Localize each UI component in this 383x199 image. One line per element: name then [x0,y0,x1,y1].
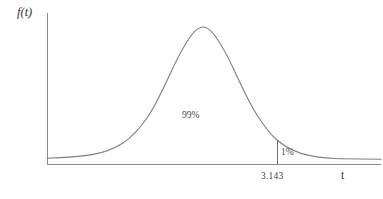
main-area-label: 99% [182,111,199,121]
distribution-plot [0,0,383,199]
x-axis-label: t [341,170,344,182]
critical-value-label: 3.143 [261,172,283,182]
tail-area-label: 1% [281,148,294,158]
statistics-figure: f(t) t 99% 1% 3.143 [0,0,383,199]
y-axis-label: f(t) [17,6,32,19]
density-curve [47,27,381,159]
